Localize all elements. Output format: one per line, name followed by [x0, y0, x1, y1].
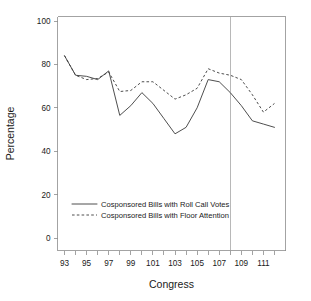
y-tick-label: 0	[46, 234, 51, 243]
y-tick-label: 40	[41, 147, 51, 156]
x-tick-label: 107	[212, 259, 226, 268]
y-tick-label: 100	[37, 17, 51, 26]
legend-label-roll-call-votes: Cosponsored Bills with Roll Call Votes	[101, 200, 230, 209]
y-axis-title: Percentage	[4, 106, 16, 160]
y-tick-label: 80	[41, 60, 51, 69]
x-tick-label: 99	[126, 259, 136, 268]
x-axis-title: Congress	[149, 278, 194, 290]
x-tick-label: 97	[104, 259, 114, 268]
y-tick-label: 20	[41, 191, 51, 200]
x-tick-label: 111	[257, 259, 270, 268]
x-tick-label: 101	[146, 259, 160, 268]
x-tick-label: 109	[234, 259, 248, 268]
line-chart: 020406080100 93959799101103105107109111 …	[0, 0, 311, 301]
x-tick-label: 95	[82, 259, 92, 268]
x-tick-label: 105	[190, 259, 204, 268]
y-tick-label: 60	[41, 104, 51, 113]
x-tick-label: 93	[60, 259, 70, 268]
legend-label-floor-attention: Cosponsored Bills with Floor Attention	[101, 211, 229, 220]
chart-container: 020406080100 93959799101103105107109111 …	[0, 0, 311, 301]
x-tick-label: 103	[168, 259, 182, 268]
